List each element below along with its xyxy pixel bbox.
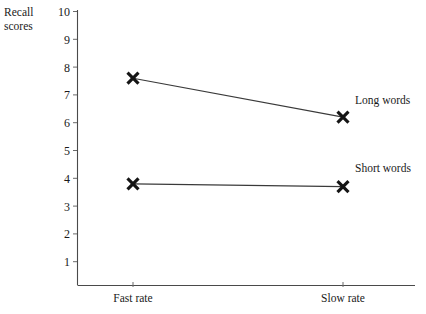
y-tick-label-4: 4 xyxy=(64,172,70,186)
y-tick-label-1: 1 xyxy=(64,255,70,269)
series-label-short-words: Short words xyxy=(355,162,411,174)
data-point-long-words-slow-rate xyxy=(338,112,349,123)
chart-figure: Recall scores 10 9 8 7 6 5 4 3 2 1 xyxy=(0,0,426,314)
series-label-long-words: Long words xyxy=(355,94,411,107)
series-line-short-words xyxy=(133,184,343,187)
x-category-label-slow-rate: Slow rate xyxy=(321,292,365,304)
y-tick-label-7: 7 xyxy=(64,88,70,102)
line-chart-canvas: Recall scores 10 9 8 7 6 5 4 3 2 1 xyxy=(0,0,426,314)
y-tick-label-8: 8 xyxy=(64,61,70,75)
x-category-label-fast-rate: Fast rate xyxy=(113,292,152,304)
y-tick-label-6: 6 xyxy=(64,116,70,130)
y-tick-label-10: 10 xyxy=(58,5,70,19)
y-tick-label-5: 5 xyxy=(64,144,70,158)
data-point-long-words-fast-rate xyxy=(128,73,139,84)
y-tick-label-9: 9 xyxy=(64,33,70,47)
y-axis-title-line-1: Recall xyxy=(4,6,33,18)
series-line-long-words xyxy=(133,78,343,117)
y-axis-title-line-2: scores xyxy=(4,20,33,32)
y-tick-label-2: 2 xyxy=(64,227,70,241)
y-tick-label-3: 3 xyxy=(64,200,70,214)
